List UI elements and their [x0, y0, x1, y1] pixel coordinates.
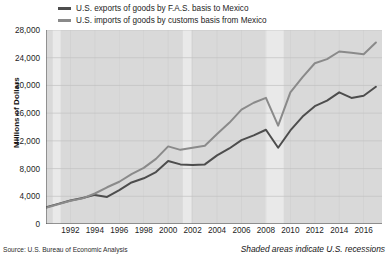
chart-legend: U.S. exports of goods by F.A.S. basis to…	[58, 3, 298, 27]
chart-container: U.S. exports of goods by F.A.S. basis to…	[0, 0, 389, 260]
x-tick-2004: 2004	[208, 226, 226, 235]
y-tick-4000: 4,000	[20, 192, 41, 201]
legend-swatch-exports	[58, 7, 71, 10]
x-tick-2008: 2008	[257, 226, 275, 235]
x-tick-2006: 2006	[232, 226, 250, 235]
legend-item-imports: U.S. imports of goods by customs basis f…	[58, 15, 298, 25]
y-axis-tick-labels: 04,0008,00012,00016,00020,00024,00028,00…	[0, 0, 43, 260]
x-tick-2000: 2000	[159, 226, 177, 235]
legend-label-imports: U.S. imports of goods by customs basis f…	[76, 16, 267, 25]
x-tick-1994: 1994	[86, 226, 104, 235]
y-tick-8000: 8,000	[20, 164, 41, 173]
legend-label-exports: U.S. exports of goods by F.A.S. basis to…	[76, 4, 248, 13]
y-tick-20000: 20,000	[15, 81, 40, 90]
x-tick-1996: 1996	[110, 226, 128, 235]
recession-band-0	[53, 30, 61, 224]
source-note: Source: U.S. Bureau of Economic Analysis	[3, 246, 128, 253]
recession-band-1	[183, 30, 192, 224]
legend-item-exports: U.S. exports of goods by F.A.S. basis to…	[58, 3, 298, 13]
x-tick-2014: 2014	[330, 226, 348, 235]
y-tick-12000: 12,000	[15, 136, 40, 145]
chart-svg	[46, 30, 382, 224]
y-tick-24000: 24,000	[15, 53, 40, 62]
recession-note: Shaded areas indicate U.S. recessions	[241, 244, 385, 254]
x-tick-1998: 1998	[135, 226, 153, 235]
legend-swatch-imports	[58, 19, 71, 22]
x-tick-2016: 2016	[355, 226, 373, 235]
y-tick-16000: 16,000	[15, 109, 40, 118]
y-tick-28000: 28,000	[15, 26, 40, 35]
recession-band-2	[265, 30, 283, 224]
plot-area	[46, 30, 382, 224]
x-tick-2010: 2010	[281, 226, 299, 235]
x-axis-tick-labels: 1992199419961998200020022004200620082010…	[0, 226, 389, 240]
x-tick-2002: 2002	[184, 226, 202, 235]
x-tick-2012: 2012	[306, 226, 324, 235]
x-tick-1992: 1992	[61, 226, 79, 235]
